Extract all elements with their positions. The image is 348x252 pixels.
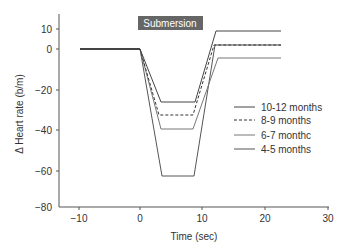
banner-label: Submersion — [143, 18, 196, 29]
legend-label: 4-5 months — [261, 144, 311, 155]
y-tick-label: 0 — [46, 44, 52, 55]
legend-label: 8-9 months — [261, 115, 311, 126]
heart-rate-chart: 10 0 −20 −40 −60 −80 −10 0 10 20 30 Time… — [0, 0, 348, 252]
x-tick-label: 0 — [137, 213, 143, 224]
y-tick-label: −80 — [35, 202, 52, 213]
y-tick-label: −20 — [35, 85, 52, 96]
submersion-banner: Submersion — [138, 16, 203, 30]
series-4-5-months — [80, 45, 281, 176]
x-ticks: −10 0 10 20 30 — [71, 207, 334, 224]
series-8-9-months — [80, 45, 281, 115]
y-tick-label: 10 — [41, 24, 53, 35]
y-ticks: 10 0 −20 −40 −60 −80 — [35, 24, 59, 213]
legend-label: 6-7 monthc — [261, 130, 311, 141]
x-tick-label: 10 — [196, 213, 208, 224]
legend-label: 10-12 months — [261, 102, 322, 113]
x-axis-title: Time (sec) — [171, 231, 218, 242]
x-tick-label: 20 — [259, 213, 271, 224]
series-6-7-months — [80, 49, 281, 129]
y-axis-title: Δ Heart rate (b/m) — [14, 74, 25, 153]
y-tick-label: −60 — [35, 166, 52, 177]
legend: 10-12 months 8-9 months 6-7 monthc 4-5 m… — [234, 102, 322, 155]
x-tick-label: 30 — [322, 213, 334, 224]
series-lines — [80, 31, 281, 176]
series-10-12-months — [80, 31, 281, 102]
x-tick-label: −10 — [71, 213, 88, 224]
y-tick-label: −40 — [35, 125, 52, 136]
